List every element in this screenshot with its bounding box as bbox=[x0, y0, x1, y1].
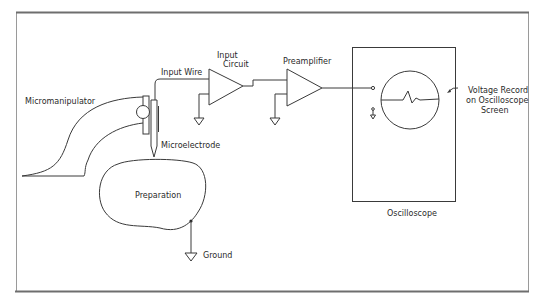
ground-connection bbox=[185, 219, 197, 261]
ground-icon bbox=[194, 118, 204, 125]
input-wire bbox=[155, 79, 210, 100]
microelectrode bbox=[151, 100, 159, 157]
figure-frame bbox=[15, 12, 529, 292]
input-wire-label: Input Wire bbox=[161, 68, 202, 77]
input-terminal-icon bbox=[371, 86, 374, 89]
preamplifier bbox=[270, 69, 375, 125]
input-circuit-amplifier bbox=[194, 69, 280, 125]
microelectrode-label: Microelectrode bbox=[161, 141, 220, 150]
diagram-canvas: Micromanipulator Microelectrode Input Wi… bbox=[0, 0, 543, 308]
voltage-record-label-2: on Oscilloscope bbox=[466, 96, 528, 105]
preparation-label: Preparation bbox=[135, 191, 181, 200]
input-circuit-label-1: Input bbox=[217, 51, 238, 60]
recording-setup-diagram: Micromanipulator Microelectrode Input Wi… bbox=[0, 0, 543, 308]
preamplifier-label: Preamplifier bbox=[283, 57, 332, 66]
oscilloscope-label: Oscilloscope bbox=[387, 209, 437, 218]
micromanipulator-label: Micromanipulator bbox=[25, 97, 96, 106]
voltage-record-label-1: Voltage Record bbox=[468, 86, 528, 95]
ground-icon bbox=[270, 118, 280, 125]
ground-icon bbox=[371, 115, 376, 119]
oscilloscope bbox=[353, 48, 459, 202]
micromanipulator bbox=[22, 96, 150, 176]
voltage-record-label-3: Screen bbox=[481, 106, 509, 115]
input-circuit-label-2: Circuit bbox=[223, 60, 249, 69]
ground-label: Ground bbox=[203, 251, 232, 260]
ground-icon bbox=[185, 253, 197, 261]
